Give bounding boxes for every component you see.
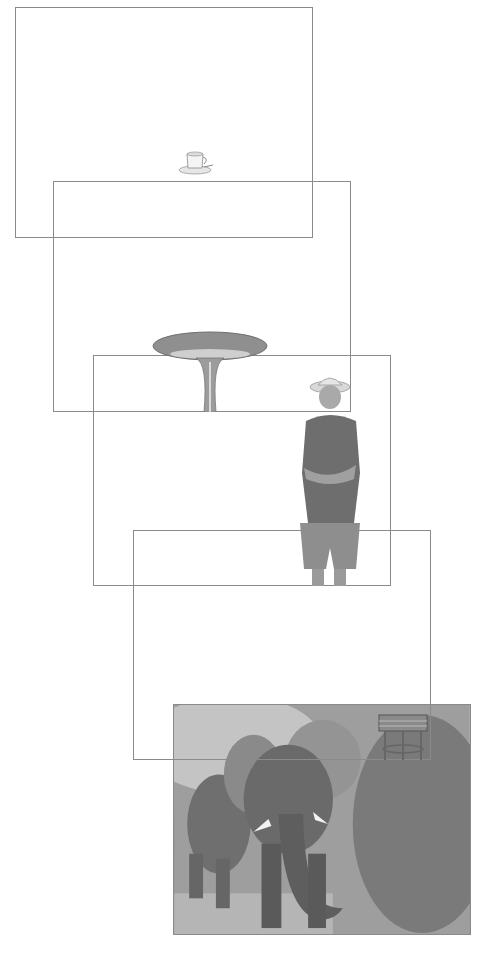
man-in-hat-image	[294, 373, 366, 586]
stool-image	[377, 713, 429, 760]
round-table-image	[152, 330, 268, 412]
coffee-cup-image	[178, 150, 214, 176]
